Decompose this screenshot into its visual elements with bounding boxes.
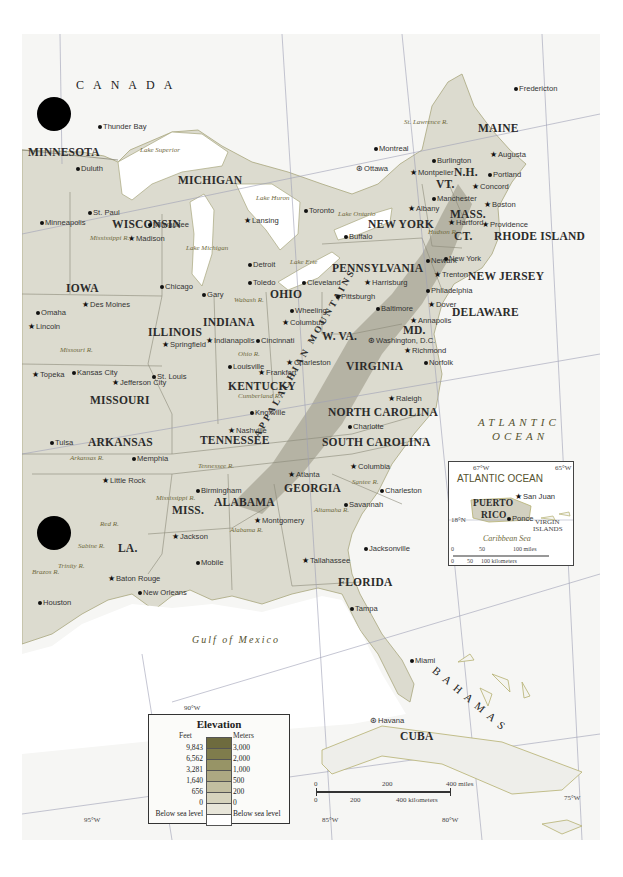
city-label: ★Harrisburg (364, 278, 407, 287)
legend-title: Elevation (149, 718, 289, 730)
state-label: ARKANSAS (88, 436, 153, 448)
city-label: St. Paul (88, 208, 120, 217)
city-label: ★Trenton (434, 270, 468, 279)
city-label: St. Louis (152, 372, 187, 381)
city-dot-icon (250, 411, 254, 415)
city-label: New Orleans (138, 588, 187, 597)
capital-star-icon: ★ (434, 270, 441, 279)
water-feature-label: Altamaha R. (314, 506, 349, 514)
city-label: Minneapolis (40, 218, 86, 227)
city-label: Thunder Bay (98, 122, 146, 131)
city-label: Kansas City (72, 368, 118, 377)
legend-feet-value: 1,640 (186, 776, 203, 785)
state-label: ILLINOIS (148, 326, 202, 338)
capital-star-icon: ★ (288, 470, 295, 479)
legend-meters-value: 200 (233, 787, 244, 796)
city-label: Gary (202, 290, 223, 299)
city-label: Pittsburgh (336, 292, 375, 301)
city-dot-icon (350, 607, 354, 611)
capital-star-icon: ★ (410, 316, 417, 325)
city-label: Wheeling (290, 306, 327, 315)
city-label: ★Raleigh (388, 394, 422, 403)
city-label: ★Dover (428, 300, 456, 309)
city-label: ★Topeka (32, 370, 65, 379)
water-feature-label: Lake Ontario (338, 210, 376, 218)
state-label: W. VA. (322, 330, 357, 342)
city-dot-icon (152, 375, 156, 379)
capital-star-icon: ★ (388, 394, 395, 403)
legend-swatches (206, 737, 232, 826)
city-dot-icon (302, 281, 306, 285)
legend-swatch (207, 771, 231, 782)
city-label: Miami (410, 656, 435, 665)
state-label: FLORIDA (338, 576, 392, 588)
city-label: ★Frankfort (258, 368, 296, 377)
capital-star-icon: ★ (472, 182, 479, 191)
city-label: Chicago (160, 282, 193, 291)
gulf-of-mexico-label: Gulf of Mexico (192, 634, 280, 645)
city-dot-icon (248, 281, 252, 285)
city-label: ★Montgomery (254, 516, 304, 525)
city-label: ★Augusta (490, 150, 526, 159)
city-dot-icon (36, 311, 40, 315)
state-label: VT. (436, 178, 455, 190)
city-dot-icon (256, 339, 260, 343)
city-label: Norfolk (424, 358, 453, 367)
state-label: DELAWARE (452, 306, 519, 318)
legend-feet-value: 6,562 (186, 754, 203, 763)
city-label: Charleston (380, 486, 422, 495)
capital-star-icon: ★ (254, 516, 261, 525)
legend-swatch (207, 749, 231, 760)
capital-star-icon: ★ (490, 150, 497, 159)
black-dot-marker (37, 516, 71, 550)
city-dot-icon (364, 547, 368, 551)
legend-swatch (207, 782, 231, 793)
city-dot-icon (76, 167, 80, 171)
legend-meters-label: Meters (233, 731, 254, 740)
capital-star-icon: ★ (258, 368, 265, 377)
capital-star-icon: ★ (162, 340, 169, 349)
city-dot-icon (202, 293, 206, 297)
ocean-label-atlantic-2: OCEAN (492, 430, 548, 442)
state-label: N.H. (454, 166, 478, 178)
city-label: ★Montpelier (410, 168, 453, 177)
capital-star-icon: ★ (82, 300, 89, 309)
water-feature-label: Arkansas R. (70, 454, 104, 462)
country-label-cuba: CUBA (400, 730, 433, 742)
state-label: NEW JERSEY (468, 270, 544, 282)
water-feature-label: Mississippi R. (156, 494, 195, 502)
legend-swatch (207, 760, 231, 771)
city-label: ★Tallahassee (302, 556, 350, 565)
legend-swatch (207, 804, 231, 815)
black-dot-marker (37, 97, 71, 131)
city-dot-icon (426, 289, 430, 293)
city-label: Cleveland (302, 278, 341, 287)
city-dot-icon (196, 561, 200, 565)
city-label: Mobile (196, 558, 223, 567)
city-label: ★Springfield (162, 340, 206, 349)
national-capital-icon: ⊛ (370, 716, 377, 725)
city-label: Milwaukee (148, 220, 189, 229)
city-label: ★Providence (482, 220, 528, 229)
water-feature-label: Mississippi R. (90, 234, 129, 242)
city-label: ★Richmond (404, 346, 446, 355)
state-label: GEORGIA (284, 482, 341, 494)
city-label: ★Indianapolis (206, 336, 255, 345)
state-label: VIRGINIA (346, 360, 403, 372)
city-label: Omaha (36, 308, 66, 317)
jamaica-island (542, 820, 582, 834)
city-label: ★Jackson (172, 532, 208, 541)
legend-meters-value: 2,000 (233, 754, 250, 763)
state-label: MD. (403, 324, 426, 336)
city-label: ★Boston (484, 200, 516, 209)
water-feature-label: Missouri R. (60, 346, 93, 354)
water-feature-label: Wabash R. (234, 296, 264, 304)
city-dot-icon (336, 295, 340, 299)
capital-star-icon: ★ (428, 300, 435, 309)
city-label: Portland (488, 170, 521, 179)
water-feature-label: Lake Huron (256, 194, 289, 202)
capital-star-icon: ★ (408, 204, 415, 213)
city-label: Detroit (248, 260, 275, 269)
state-label: MISS. (172, 504, 204, 516)
city-label: ★Little Rock (102, 476, 145, 485)
